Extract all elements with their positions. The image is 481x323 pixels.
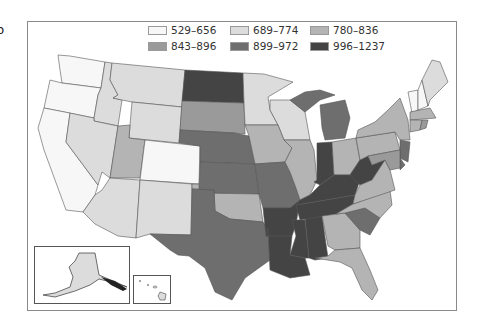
state-NJ (400, 140, 410, 162)
state-ND (182, 70, 244, 103)
state-WA (58, 55, 105, 88)
hawaii-inset (133, 275, 171, 304)
state-CO (140, 140, 200, 184)
state-NY (356, 98, 410, 140)
alaska-inset (34, 246, 130, 304)
state-WY (129, 102, 182, 143)
state-NM (136, 180, 192, 238)
state-MI (320, 100, 350, 140)
state-VT (408, 90, 418, 113)
state-KS (199, 162, 259, 194)
state-SD (180, 101, 245, 134)
